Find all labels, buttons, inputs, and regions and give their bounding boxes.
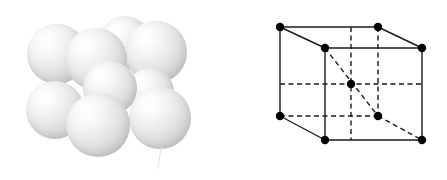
atom-back-top-right bbox=[374, 23, 382, 31]
edge-back-top-left-diagonal bbox=[280, 27, 325, 48]
atom-back-bottom-right bbox=[374, 112, 382, 120]
corner-sphere-front-bottom-left bbox=[66, 93, 130, 157]
atom-back-top-left bbox=[276, 23, 284, 31]
atom-front-top-right bbox=[418, 44, 426, 52]
atom-front-bottom-left bbox=[321, 136, 329, 144]
sphere-packing-panel bbox=[0, 0, 223, 180]
edge-hidden-bottom-right-diagonal bbox=[378, 116, 422, 140]
scratch-mark bbox=[157, 147, 162, 169]
edge-back-bottom-left-diagonal bbox=[280, 116, 325, 140]
atom-front-top-left bbox=[321, 44, 329, 52]
atom-body-center bbox=[347, 80, 355, 88]
unit-cell-diagram bbox=[223, 0, 447, 180]
unit-cell-panel bbox=[223, 0, 447, 180]
edge-back-top-right-diagonal bbox=[378, 27, 422, 48]
atom-front-bottom-right bbox=[418, 136, 426, 144]
bcc-structure-figure bbox=[0, 0, 447, 180]
atom-back-bottom-left bbox=[276, 112, 284, 120]
corner-sphere-front-bottom-right bbox=[129, 87, 191, 149]
